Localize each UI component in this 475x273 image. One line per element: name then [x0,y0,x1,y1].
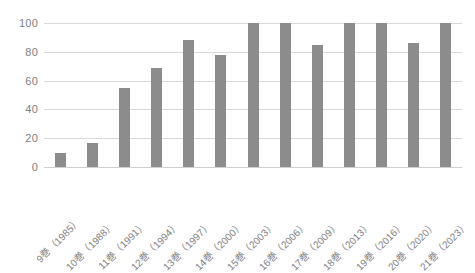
bar[interactable] [215,55,226,167]
bar[interactable] [440,23,451,167]
x-tick-slot: 18巻（2013） [333,167,365,256]
x-tick-slot: 13巻（1997） [173,167,205,256]
bar-slot [173,23,205,167]
bar-slot [44,23,76,167]
x-tick-slot: 16巻（2006） [269,167,301,256]
bars-layer [44,23,462,167]
bar-slot [140,23,172,167]
x-tick-slot: 11巻（1991） [108,167,140,256]
bar[interactable] [248,23,259,167]
bar[interactable] [55,153,66,167]
x-tick-slot: 14巻（2000） [205,167,237,256]
y-axis-tick-label: 60 [25,75,38,87]
bar[interactable] [344,23,355,167]
x-axis: 9巻（1985）10巻（1988）11巻（1991）12巻（1994）13巻（1… [44,167,462,256]
bar-slot [76,23,108,167]
bar-slot [301,23,333,167]
bar[interactable] [87,143,98,167]
bar-slot [398,23,430,167]
x-tick-slot: 15巻（2003） [237,167,269,256]
x-tick-slot: 17巻（2009） [301,167,333,256]
x-tick-slot: 10巻（1988） [76,167,108,256]
x-tick-slot: 20巻（2020） [398,167,430,256]
y-axis-tick-label: 80 [25,46,38,58]
bar-slot [333,23,365,167]
x-tick-slot: 9巻（1985） [44,167,76,256]
bar-slot [269,23,301,167]
bar[interactable] [408,43,419,167]
bar[interactable] [151,68,162,167]
y-axis-tick-label: 0 [32,161,38,173]
y-axis: 100806040200 [0,23,38,167]
x-tick-slot: 19巻（2016） [366,167,398,256]
bar-slot [430,23,462,167]
bar-slot [237,23,269,167]
bar[interactable] [312,45,323,167]
bar-slot [205,23,237,167]
bar[interactable] [119,88,130,167]
y-axis-tick-label: 100 [19,17,38,29]
bar[interactable] [183,40,194,167]
x-tick-slot: 12巻（1994） [140,167,172,256]
bar-slot [366,23,398,167]
bar-slot [108,23,140,167]
bar[interactable] [280,23,291,167]
x-tick-slot: 21巻（2023） [430,167,462,256]
bar[interactable] [376,23,387,167]
y-axis-tick-label: 40 [25,103,38,115]
y-axis-tick-label: 20 [25,132,38,144]
